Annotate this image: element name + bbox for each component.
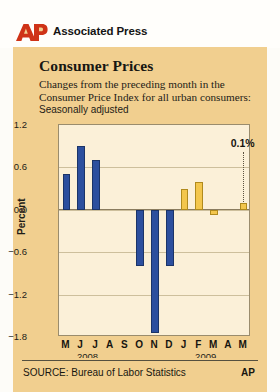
x-axis-tick: M: [61, 339, 69, 350]
gridline: [59, 167, 249, 168]
x-axis-tick: A: [224, 339, 231, 350]
chart-footer: SOURCE: Bureau of Labor Statistics AP: [13, 358, 267, 392]
x-axis-tick: J: [77, 339, 83, 350]
ap-logo-icon: [14, 23, 48, 42]
chart-bar: [77, 146, 85, 210]
chart-bar: [195, 182, 203, 210]
chart-bar: [210, 210, 218, 216]
x-axis-tick: J: [92, 339, 98, 350]
chart-bar: [92, 160, 100, 209]
ap-brand-label: Associated Press: [53, 25, 147, 37]
y-axis-tick: −1.8: [8, 331, 27, 342]
y-axis-tick: 0.0: [14, 203, 27, 214]
chart-bar: [181, 189, 189, 210]
y-axis-tick: −1.2: [8, 288, 27, 299]
chart-bar: [166, 210, 174, 267]
x-axis-tick: M: [238, 339, 246, 350]
ap-credit-label: AP: [241, 367, 255, 378]
callout-leader-line: [243, 152, 244, 202]
y-axis-tick: −0.6: [8, 246, 27, 257]
plot-wrapper: Percent 1.20.60.0−0.6−1.2−1.8MJJASONDJFM…: [13, 47, 267, 358]
ap-header: Associated Press: [0, 0, 280, 48]
x-axis-tick: J: [181, 339, 187, 350]
x-axis-tick: O: [135, 339, 143, 350]
chart-bar: [240, 203, 248, 210]
source-label: SOURCE: Bureau of Labor Statistics: [23, 367, 186, 378]
x-axis-tick: S: [121, 339, 128, 350]
x-axis-tick: A: [106, 339, 113, 350]
x-axis-tick: F: [195, 339, 201, 350]
footer-divider: [22, 360, 258, 361]
chart-bar: [63, 174, 71, 209]
infographic-root: Associated Press Consumer Prices Changes…: [0, 0, 280, 392]
y-axis-tick: 1.2: [14, 119, 27, 130]
y-axis-tick: 0.6: [14, 161, 27, 172]
chart-card: Consumer Prices Changes from the precedi…: [13, 47, 267, 358]
x-axis-tick: N: [150, 339, 157, 350]
x-axis-tick: M: [209, 339, 217, 350]
x-axis-tick: D: [165, 339, 172, 350]
callout-label: 0.1%: [231, 137, 255, 149]
chart-bar: [151, 210, 159, 334]
chart-bar: [136, 210, 144, 267]
plot-area: [58, 124, 250, 336]
